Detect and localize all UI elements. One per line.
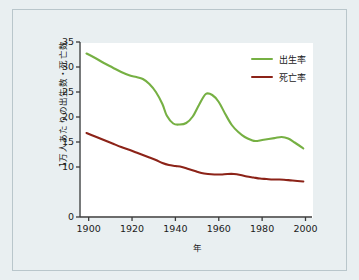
- y-tick-label: 35: [52, 36, 74, 47]
- y-tick-label: 30: [52, 61, 74, 72]
- x-tick-label: 1920: [115, 223, 149, 234]
- y-tick-label: 20: [52, 111, 74, 122]
- x-tick-label: 2000: [288, 223, 322, 234]
- y-tick-label: 25: [52, 86, 74, 97]
- x-tick-label: 1980: [245, 223, 279, 234]
- chart-frame: 1万人あたりの出生数・死亡数 年 出生率 死亡率 010152025303519…: [12, 9, 347, 271]
- x-tick-label: 1940: [158, 223, 192, 234]
- x-tick-label: 1900: [72, 223, 106, 234]
- y-tick-label: 10: [52, 161, 74, 172]
- chart-page: 1万人あたりの出生数・死亡数 年 出生率 死亡率 010152025303519…: [0, 0, 359, 280]
- x-tick-label: 1960: [202, 223, 236, 234]
- tick-label-layer: 0101520253035190019201940196019802000: [13, 10, 348, 272]
- y-tick-label: 0: [52, 211, 74, 222]
- y-tick-label: 15: [52, 136, 74, 147]
